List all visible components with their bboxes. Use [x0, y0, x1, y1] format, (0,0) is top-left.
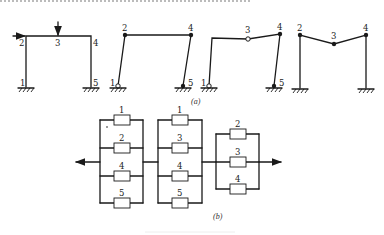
- group-3: 2 3 4: [216, 119, 259, 194]
- svg-text:5: 5: [188, 78, 193, 88]
- svg-text:4: 4: [363, 23, 368, 33]
- reliability-diagram: 1 2 4 5 1 3 4 5: [76, 105, 281, 208]
- diagram-canvas: 1 2 3 4 5 1 2 4 5 1 3 4 5: [0, 0, 384, 235]
- svg-text:3: 3: [235, 147, 240, 157]
- svg-text:2: 2: [119, 133, 124, 143]
- svg-text:5: 5: [177, 188, 182, 198]
- caption-a: (a): [191, 97, 201, 106]
- svg-text:5: 5: [119, 188, 124, 198]
- svg-text:1: 1: [20, 78, 25, 88]
- svg-text:5: 5: [93, 78, 98, 88]
- fixed-support-left: [18, 88, 34, 92]
- group-2: 1 3 4 5: [158, 105, 202, 208]
- svg-text:4: 4: [277, 22, 282, 32]
- svg-text:3: 3: [331, 31, 336, 41]
- frame-sway-mechanism: 1 2 4 5: [110, 23, 193, 92]
- svg-text:4: 4: [93, 38, 98, 48]
- svg-text:2: 2: [235, 119, 240, 129]
- svg-text:2: 2: [122, 23, 127, 33]
- group-1: 1 2 4 5: [100, 105, 143, 208]
- svg-text:1: 1: [119, 105, 124, 115]
- svg-text:2: 2: [19, 38, 24, 48]
- frame-original: 1 2 3 4 5: [13, 22, 99, 92]
- fixed-support-right: [83, 88, 99, 92]
- svg-text:4: 4: [235, 174, 240, 184]
- svg-text:3: 3: [245, 25, 250, 35]
- svg-text:1: 1: [201, 78, 206, 88]
- svg-text:4: 4: [119, 161, 124, 171]
- svg-text:4: 4: [177, 161, 182, 171]
- svg-text:3: 3: [55, 38, 60, 48]
- svg-text:1: 1: [177, 105, 182, 115]
- caption-b: (b): [213, 212, 223, 221]
- svg-text:5: 5: [279, 78, 284, 88]
- svg-text:4: 4: [188, 23, 193, 33]
- frame-combined-mechanism: 1 3 4 5: [201, 22, 284, 92]
- svg-text:1: 1: [110, 78, 115, 88]
- svg-text:3: 3: [177, 133, 182, 143]
- svg-text:2: 2: [297, 23, 302, 33]
- frame-beam-mechanism: 2 3 4: [292, 23, 374, 93]
